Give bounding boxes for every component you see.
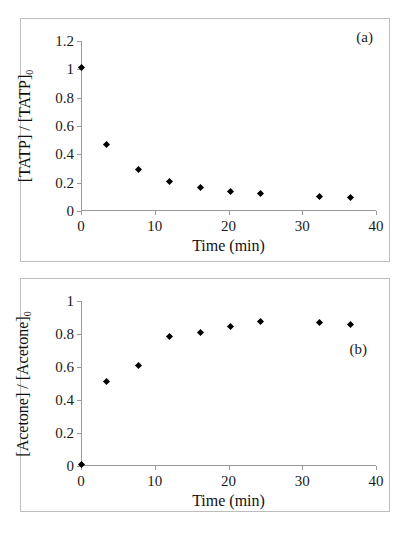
x-tick-mark xyxy=(376,211,377,215)
data-point xyxy=(197,184,204,191)
y-tick-label: 0 xyxy=(67,459,75,474)
x-tick-mark xyxy=(302,466,303,470)
plot-area-b: 00.20.40.60.81 010203040 Time (min) [Ace… xyxy=(81,301,376,466)
data-point xyxy=(103,141,110,148)
y-axis-title-a-main: [TATP] / [TATP] xyxy=(16,75,33,183)
x-tick-label: 30 xyxy=(295,474,310,489)
x-tick-label: 30 xyxy=(295,219,310,234)
y-tick-mark xyxy=(77,400,81,401)
x-tick-label: 10 xyxy=(147,219,162,234)
data-point xyxy=(347,194,354,201)
data-point xyxy=(135,362,142,369)
x-tick-mark xyxy=(229,466,230,470)
data-point xyxy=(257,318,264,325)
y-tick-mark xyxy=(77,433,81,434)
x-tick-mark xyxy=(155,211,156,215)
data-point xyxy=(227,323,234,330)
y-tick-label: 1.2 xyxy=(55,34,74,49)
data-point xyxy=(227,188,234,195)
y-tick-mark xyxy=(77,301,81,302)
x-tick-mark xyxy=(155,466,156,470)
y-tick-label: 0.6 xyxy=(55,360,74,375)
chart-panel-a: (a) 00.20.40.60.811.2 010203040 Time (mi… xyxy=(20,18,390,262)
y-axis-title-a-subscript: 0 xyxy=(24,70,35,75)
y-tick-label: 0.2 xyxy=(55,175,74,190)
y-tick-label: 0.2 xyxy=(55,426,74,441)
x-axis-title-a: Time (min) xyxy=(192,237,265,255)
y-tick-label: 0.6 xyxy=(55,119,74,134)
data-point xyxy=(316,193,323,200)
x-tick-mark xyxy=(81,211,82,215)
y-tick-mark xyxy=(77,183,81,184)
y-tick-label: 1 xyxy=(67,62,75,77)
data-point xyxy=(166,178,173,185)
y-tick-label: 1 xyxy=(67,294,75,309)
x-tick-label: 40 xyxy=(369,474,384,489)
y-axis-line-b xyxy=(81,301,82,466)
x-tick-label: 10 xyxy=(147,474,162,489)
y-tick-label: 0.4 xyxy=(55,147,74,162)
y-tick-mark xyxy=(77,41,81,42)
y-tick-mark xyxy=(77,154,81,155)
y-tick-label: 0.8 xyxy=(55,327,74,342)
plot-area-a: 00.20.40.60.811.2 010203040 Time (min) [… xyxy=(81,41,376,211)
x-tick-label: 20 xyxy=(221,474,236,489)
x-tick-label: 40 xyxy=(369,219,384,234)
y-axis-title-b-main: [Acetone] / [Acetone] xyxy=(14,316,31,456)
y-tick-mark xyxy=(77,334,81,335)
data-point xyxy=(316,319,323,326)
y-tick-mark xyxy=(77,126,81,127)
data-point xyxy=(197,329,204,336)
data-point xyxy=(257,190,264,197)
data-point xyxy=(77,64,84,71)
data-point xyxy=(347,321,354,328)
y-axis-title-a: [TATP] / [TATP]0 xyxy=(16,70,34,183)
data-point xyxy=(103,378,110,385)
y-tick-mark xyxy=(77,98,81,99)
x-tick-mark xyxy=(229,211,230,215)
x-axis-title-b: Time (min) xyxy=(192,492,265,510)
x-tick-mark xyxy=(376,466,377,470)
y-tick-label: 0 xyxy=(67,204,75,219)
data-point xyxy=(135,166,142,173)
y-tick-label: 0.8 xyxy=(55,90,74,105)
y-tick-label: 0.4 xyxy=(55,393,74,408)
y-tick-mark xyxy=(77,367,81,368)
figure-container: (a) 00.20.40.60.811.2 010203040 Time (mi… xyxy=(0,0,403,537)
y-axis-title-b-subscript: 0 xyxy=(22,311,33,316)
x-tick-label: 0 xyxy=(77,474,85,489)
x-tick-label: 20 xyxy=(221,219,236,234)
x-tick-label: 0 xyxy=(77,219,85,234)
y-axis-title-b: [Acetone] / [Acetone]0 xyxy=(14,311,32,456)
x-tick-mark xyxy=(302,211,303,215)
data-point xyxy=(166,333,173,340)
chart-panel-b: (b) 00.20.40.60.81 010203040 Time (min) … xyxy=(20,278,390,512)
